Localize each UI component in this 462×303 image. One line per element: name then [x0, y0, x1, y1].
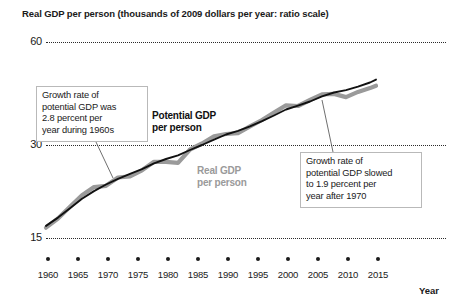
series-label-real-gdp: Real GDP per person — [197, 165, 247, 189]
annotation-right-line-1: Growth rate of — [306, 156, 416, 168]
annotation-box-growth-after-1970: Growth rate of potential GDP slowed to 1… — [300, 152, 422, 208]
annotation-box-growth-1960s: Growth rate of potential GDP was 2.8 per… — [36, 86, 148, 142]
annotation-left-line-2: potential GDP was — [42, 102, 142, 114]
annotation-right-line-3: to 1.9 percent per — [306, 179, 416, 191]
series-label-real-line-2: per person — [197, 177, 247, 189]
annotation-left-line-3: 2.8 percent per — [42, 113, 142, 125]
series-label-real-line-1: Real GDP — [197, 165, 247, 177]
annotation-right-line-4: year after 1970 — [306, 191, 416, 203]
annotation-right-line-2: potential GDP slowed — [306, 168, 416, 180]
series-label-potential-line-1: Potential GDP — [152, 110, 216, 122]
leader-line-right — [322, 100, 333, 152]
series-label-potential-line-2: per person — [152, 122, 216, 134]
annotation-left-line-4: year during 1960s — [42, 125, 142, 137]
annotation-left-line-1: Growth rate of — [42, 90, 142, 102]
leader-line-left — [96, 142, 113, 178]
series-label-potential-gdp: Potential GDP per person — [152, 110, 216, 134]
chart-figure: Real GDP per person (thousands of 2009 d… — [0, 0, 462, 303]
